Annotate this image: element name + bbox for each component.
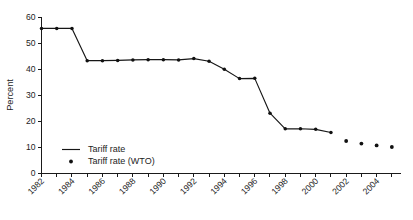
y-tick-label-30: 30 — [26, 90, 36, 100]
series-marker-0-2000 — [314, 128, 318, 132]
x-tick-label-1982: 1982 — [26, 176, 47, 197]
series-marker-0-2001 — [329, 131, 333, 135]
series-marker-0-1987 — [116, 59, 120, 63]
legend-label-1: Tariff rate — [88, 144, 125, 154]
y-tick-label-60: 60 — [26, 12, 36, 22]
x-tick-label-2000: 2000 — [300, 176, 321, 197]
y-tick-label-0: 0 — [31, 168, 36, 178]
series-marker-0-1994 — [223, 68, 227, 72]
series-marker-0-1998 — [283, 127, 287, 131]
series-line-0 — [42, 28, 331, 132]
series-marker-0-1989 — [146, 58, 150, 62]
line-chart: 0102030405060 19821984198619881990199219… — [0, 0, 413, 220]
y-tick-label-10: 10 — [26, 142, 36, 152]
series-marker-0-1984 — [70, 27, 74, 31]
x-tick-label-2004: 2004 — [361, 176, 382, 197]
wto-marker-2002 — [344, 139, 348, 143]
legend-marker-dot — [69, 160, 73, 164]
x-tick-label-1994: 1994 — [208, 176, 229, 197]
wto-marker-2005 — [390, 145, 394, 149]
series-marker-0-1997 — [268, 111, 272, 115]
x-tick-label-1986: 1986 — [86, 176, 107, 197]
x-tick-label-1996: 1996 — [239, 176, 260, 197]
series-marker-0-1995 — [238, 77, 242, 81]
series-marker-0-1985 — [85, 59, 89, 63]
x-tick-label-2002: 2002 — [330, 176, 351, 197]
legend-label-2: Tariff rate (WTO) — [88, 156, 155, 166]
series-marker-0-1988 — [131, 58, 135, 62]
wto-marker-2004 — [375, 144, 379, 148]
series-marker-0-1992 — [192, 57, 196, 61]
x-tick-label-1998: 1998 — [269, 176, 290, 197]
y-axis-title: Percent — [5, 79, 15, 111]
series-marker-0-1993 — [207, 59, 211, 63]
x-tick-label-1990: 1990 — [147, 176, 168, 197]
y-tick-label-20: 20 — [26, 116, 36, 126]
y-axis: 0102030405060 — [26, 12, 42, 178]
chart-legend: Tariff rateTariff rate (WTO) — [62, 144, 155, 166]
series-plot-area — [40, 27, 394, 149]
y-axis-title-text: Percent — [5, 79, 15, 111]
x-tick-label-1984: 1984 — [56, 176, 77, 197]
y-tick-label-50: 50 — [26, 38, 36, 48]
series-marker-0-1990 — [162, 58, 166, 62]
series-marker-0-1982 — [40, 27, 44, 31]
x-axis: 1982198419861988199019921994199619982000… — [26, 173, 401, 196]
series-marker-0-1999 — [299, 127, 303, 131]
x-tick-label-1992: 1992 — [178, 176, 199, 197]
series-marker-0-1983 — [55, 27, 59, 31]
y-tick-label-40: 40 — [26, 64, 36, 74]
wto-marker-2003 — [359, 142, 363, 146]
series-marker-0-1991 — [177, 58, 181, 62]
chart-figure: 0102030405060 19821984198619881990199219… — [0, 0, 413, 220]
series-marker-0-1996 — [253, 77, 257, 81]
series-marker-0-1986 — [101, 59, 105, 63]
x-tick-label-1988: 1988 — [117, 176, 138, 197]
